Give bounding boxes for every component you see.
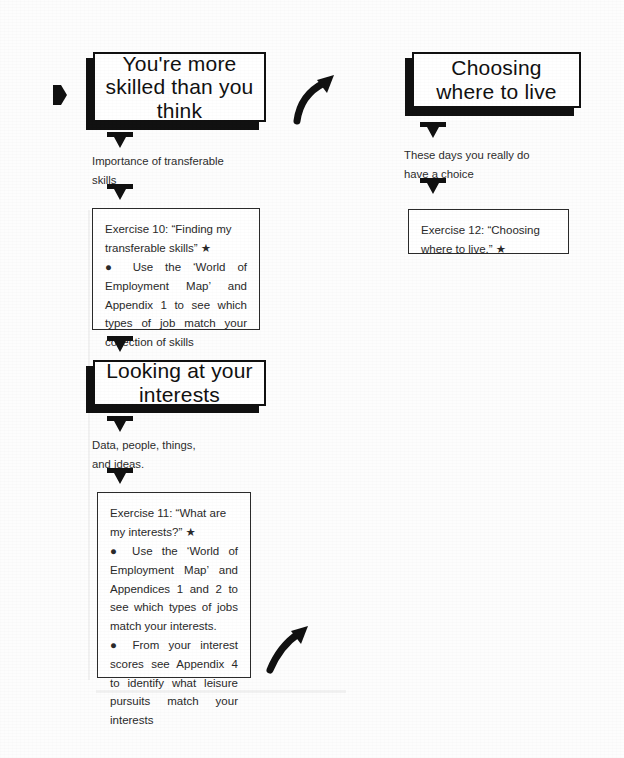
exercise-11-bullet-2: ● From your interest scores see Appendix… xyxy=(110,636,238,729)
scan-smudge-left xyxy=(88,210,90,680)
down-arrow-interests-note xyxy=(105,466,135,486)
header-box-choosing-where-to-live: Choosing where to live xyxy=(412,52,581,108)
header-box-2-title: Looking at your interests xyxy=(102,359,257,406)
exercise-10-heading: Exercise 10: “Finding my transferable sk… xyxy=(105,220,247,257)
page-canvas: You're more skilled than you think Impor… xyxy=(0,0,624,758)
exercise-11-box: Exercise 11: “What are my interests?” ★ … xyxy=(97,492,251,678)
exercise-11-bullet-1: ● Use the ‘World of Employment Map’ and … xyxy=(110,542,238,635)
exercise-12-box: Exercise 12: “Choosing where to live.” ★ xyxy=(408,209,569,254)
exercise-12-heading: Exercise 12: “Choosing where to live.” ★ xyxy=(421,221,556,258)
entry-right-arrowhead-icon xyxy=(52,84,68,106)
down-arrow-live-header xyxy=(418,120,448,140)
down-arrow-header-1 xyxy=(105,130,135,150)
header-box-3-title: Choosing where to live xyxy=(432,56,561,103)
header-box-1-title: You're more skilled than you think xyxy=(102,52,258,123)
curved-arrow-bottom-right-icon xyxy=(265,620,317,678)
header-box-youre-more-skilled: You're more skilled than you think xyxy=(93,52,266,122)
down-arrow-interests-header xyxy=(105,414,135,434)
curved-arrow-top-right-icon xyxy=(290,66,342,124)
down-arrow-skills-note xyxy=(105,182,135,202)
down-arrow-live-note xyxy=(418,176,448,196)
header-box-looking-at-your-interests: Looking at your interests xyxy=(93,360,266,406)
exercise-11-heading: Exercise 11: “What are my interests?” ★ xyxy=(110,504,238,541)
down-arrow-exercise-10 xyxy=(105,334,135,354)
exercise-10-box: Exercise 10: “Finding my transferable sk… xyxy=(92,208,260,330)
